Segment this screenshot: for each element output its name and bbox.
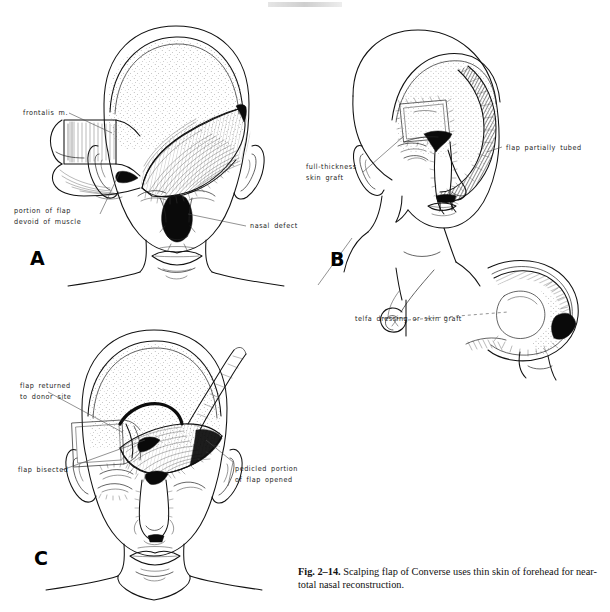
- label-flap-returned-to-donor-site: flap returned to donor site: [20, 381, 100, 402]
- label-frontalis-muscle: frontalis m.: [4, 108, 68, 119]
- label-full-thickness-skin-graft: full-thickness skin graft: [306, 162, 386, 183]
- label-portion-of-flap-devoid: portion of flap devoid of muscle: [14, 206, 124, 227]
- label-pedicled-portion-of-flap-opened: pedicled portion of flap opened: [235, 464, 327, 485]
- panel-letter-c: C: [34, 549, 48, 568]
- label-nasal-defect: nasal defect: [250, 221, 340, 232]
- figure-root: frontalis m. portion of flap devoid of m…: [0, 0, 610, 612]
- leader-frontalis: [69, 113, 112, 133]
- panel-letter-b: B: [330, 250, 344, 269]
- panel-a-illustration: [50, 26, 284, 286]
- figure-artwork: [0, 0, 610, 612]
- label-flap-partially-tubed: flap partially tubed: [506, 143, 610, 154]
- label-telfa-dressing-or-skin-graft: telfa dressing or skin graft: [355, 314, 483, 325]
- figure-caption-text: Scalping flap of Converse uses thin skin…: [298, 566, 597, 590]
- figure-caption: Fig. 2–14. Scalping flap of Converse use…: [298, 565, 610, 591]
- figure-caption-label: Fig. 2–14.: [298, 566, 341, 577]
- label-flap-bisected: flap bisected: [18, 465, 98, 476]
- panel-letter-a: A: [30, 249, 45, 268]
- leader-nasal-defect: [188, 214, 246, 226]
